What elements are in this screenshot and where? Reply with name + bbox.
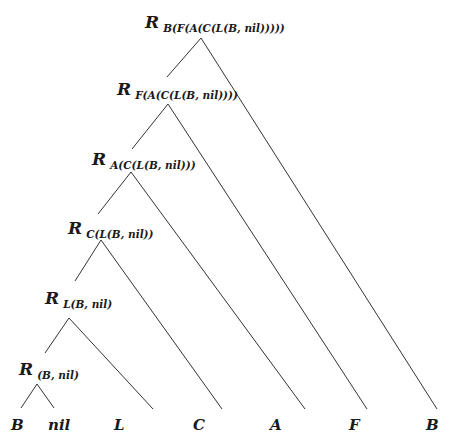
leaf-f: F: [349, 418, 360, 433]
edge-n4-leaf-C: [101, 240, 222, 409]
node-subscript: (B, nil): [37, 369, 79, 381]
edge-n2-n3: [132, 104, 168, 149]
node-symbol: R: [19, 359, 33, 379]
leaf-l: L: [114, 418, 125, 433]
node-subscript: B(F(A(C(L(B, nil))))): [163, 22, 285, 34]
edge-n3-n4: [98, 172, 131, 214]
node-symbol: R: [68, 218, 82, 238]
node-f: RF(A(C(L(B, nil)))): [117, 81, 238, 98]
edge-n5-leaf-L: [69, 318, 153, 409]
node-root: RB(F(A(C(L(B, nil))))): [145, 14, 285, 31]
edge-n2-leaf-F: [168, 104, 367, 409]
leaf-a: A: [270, 418, 282, 433]
node-symbol: R: [145, 12, 159, 32]
node-symbol: R: [92, 149, 106, 169]
edge-n3-leaf-A: [131, 172, 305, 409]
node-c: RC(L(B, nil)): [68, 220, 154, 237]
node-symbol: R: [45, 288, 59, 308]
edge-n6-leaf-B: [21, 384, 37, 408]
leaf-b: B: [11, 418, 24, 433]
node-l: RL(B, nil): [45, 290, 112, 307]
edge-n1-n2: [167, 38, 201, 77]
node-b-nil: R(B, nil): [19, 361, 79, 378]
node-subscript: L(B, nil): [63, 298, 112, 310]
tree-diagram: RB(F(A(C(L(B, nil))))) RF(A(C(L(B, nil))…: [0, 0, 450, 447]
node-subscript: A(C(L(B, nil))): [110, 159, 196, 171]
leaf-c: C: [193, 418, 205, 433]
edge-n6-leaf-nil: [37, 384, 54, 408]
leaf-nil: nil: [48, 418, 70, 433]
node-subscript: F(A(C(L(B, nil)))): [135, 89, 238, 101]
leaf-b-final: B: [426, 418, 439, 433]
node-symbol: R: [117, 79, 131, 99]
edge-n4-n5: [75, 240, 101, 281]
edge-n5-n6: [45, 318, 69, 353]
node-a: RA(C(L(B, nil))): [92, 151, 196, 168]
node-subscript: C(L(B, nil)): [86, 228, 153, 240]
